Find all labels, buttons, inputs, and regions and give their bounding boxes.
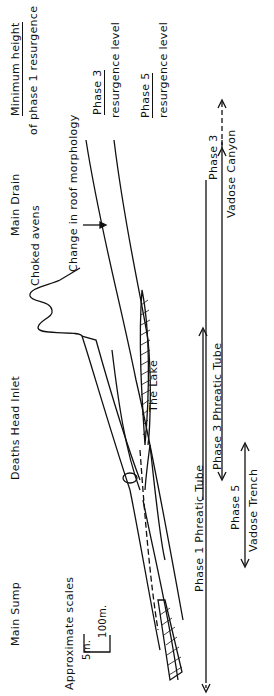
label-min-height-1: Minimum height (10, 22, 23, 116)
label-choked-avens: Choked avens (30, 205, 41, 286)
label-phase1-tube: Phase 1 Phreatic Tube (194, 465, 205, 592)
roof-line (86, 140, 183, 620)
label-phase5-1: Phase 5 (230, 485, 241, 530)
label-phase5-level-2: resurgence level (158, 22, 169, 118)
floor-line (114, 140, 150, 445)
label-main-drain: Main Drain (10, 173, 21, 236)
label-phase3-tube: Phase 3 Phreatic Tube (212, 343, 223, 470)
label-phase3-canyon-1: Phase 3 (208, 135, 219, 180)
sump-outline (158, 600, 182, 680)
avens-passage (30, 268, 130, 490)
label-scale-100m: 100m. (98, 604, 108, 638)
label-min-height-2: of phase 1 resurgence (28, 6, 39, 135)
label-main-sump: Main Sump (10, 582, 21, 646)
label-phase3-level-2: resurgence level (110, 22, 121, 118)
label-the-lake: The Lake (148, 360, 159, 412)
cave-profile-drawing (0, 0, 274, 696)
loop (123, 473, 137, 483)
label-phase5-2: Vadose Trench (248, 469, 259, 552)
dashed-line (140, 450, 158, 630)
label-phase3-canyon-2: Vadose Canyon (226, 129, 237, 218)
label-scale-5m: 5m. (82, 640, 92, 660)
label-phase3-level-1: Phase 3 (92, 70, 105, 115)
label-phase5-level-1: Phase 5 (140, 73, 153, 118)
label-deaths-head-inlet: Deaths Head Inlet (10, 376, 21, 480)
label-approx-scales: Approximate scales (64, 577, 75, 690)
label-change-roof: Change in roof morphology (68, 114, 79, 272)
